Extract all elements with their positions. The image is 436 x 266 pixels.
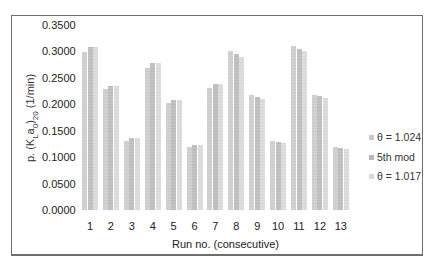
- legend-item-theta-1017: θ = 1.017: [369, 170, 421, 182]
- bar: [218, 84, 223, 210]
- x-tick-label: 4: [143, 220, 163, 232]
- bar: [213, 84, 218, 210]
- bar: [239, 57, 244, 210]
- bar: [317, 96, 322, 210]
- bar: [156, 63, 161, 210]
- legend-label: θ = 1.017: [377, 170, 421, 182]
- bar: [228, 51, 233, 210]
- bar: [135, 138, 140, 210]
- x-tick-label: 3: [122, 220, 142, 232]
- x-tick-label: 11: [289, 220, 309, 232]
- bar: [124, 141, 129, 210]
- bar: [255, 97, 260, 210]
- bar: [344, 149, 349, 210]
- bar: [270, 141, 275, 210]
- bar: [260, 99, 265, 210]
- bar: [187, 147, 192, 210]
- legend-label: 5th mod: [377, 151, 415, 163]
- y-axis-label: p. (KLa0)20 (1/min): [24, 74, 39, 162]
- bar: [177, 100, 182, 210]
- bar: [150, 63, 155, 210]
- legend-label: θ = 1.024: [377, 131, 421, 143]
- bar: [192, 145, 197, 210]
- x-tick-label: 13: [331, 220, 351, 232]
- x-tick-label: 8: [226, 220, 246, 232]
- bar: [312, 95, 317, 210]
- x-tick-label: 6: [185, 220, 205, 232]
- bar: [338, 148, 343, 210]
- legend-swatch-icon: [369, 174, 374, 179]
- bar: [333, 147, 338, 210]
- bar: [145, 68, 150, 210]
- bar: [276, 142, 281, 210]
- bar: [88, 47, 93, 210]
- x-tick-label: 12: [310, 220, 330, 232]
- x-tick-label: 7: [205, 220, 225, 232]
- bar: [323, 98, 328, 210]
- bar: [207, 88, 212, 210]
- bar: [198, 145, 203, 210]
- bar: [108, 86, 113, 210]
- x-tick-label: 1: [80, 220, 100, 232]
- bar: [114, 86, 119, 210]
- bar: [302, 51, 307, 210]
- bar: [297, 49, 302, 210]
- y-tick-label: 0.3500: [42, 19, 92, 31]
- bar: [166, 103, 171, 210]
- bar: [171, 100, 176, 210]
- legend-swatch-icon: [369, 155, 374, 160]
- bar: [249, 95, 254, 210]
- bar: [281, 143, 286, 210]
- legend-swatch-icon: [369, 135, 374, 140]
- x-tick-label: 2: [101, 220, 121, 232]
- bar: [93, 47, 98, 210]
- legend-item-theta-1024: θ = 1.024: [369, 131, 421, 143]
- bar: [103, 89, 108, 210]
- bar: [129, 138, 134, 210]
- x-tick-label: 5: [164, 220, 184, 232]
- x-tick-label: 9: [247, 220, 267, 232]
- x-tick-label: 10: [268, 220, 288, 232]
- bar: [234, 54, 239, 210]
- bar: [291, 46, 296, 210]
- x-axis-label: Run no. (consecutive): [172, 238, 279, 250]
- bar: [82, 52, 87, 210]
- legend-item-5th-mod: 5th mod: [369, 151, 415, 163]
